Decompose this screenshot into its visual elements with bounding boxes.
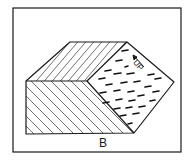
figure-label: B	[99, 136, 107, 150]
figure-frame	[13, 8, 181, 152]
side-face-dashes	[99, 50, 161, 124]
wood-block-diagram	[0, 0, 190, 162]
